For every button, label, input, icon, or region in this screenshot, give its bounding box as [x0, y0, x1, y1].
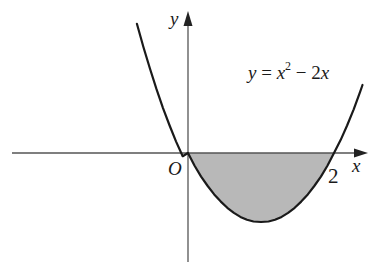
- eq-minus-two: − 2: [291, 62, 321, 83]
- eq-x2: x: [321, 62, 329, 83]
- eq-equals: =: [256, 62, 276, 83]
- origin-label: O: [168, 159, 182, 178]
- eq-x: x: [277, 62, 285, 83]
- diagram-canvas: [0, 0, 379, 265]
- y-axis-arrow-icon: [184, 11, 193, 26]
- y-axis-label: y: [170, 9, 178, 28]
- root-label-2: 2: [328, 166, 339, 187]
- x-axis-label: x: [352, 156, 360, 175]
- eq-exponent: 2: [285, 59, 291, 73]
- parabola-diagram: y = x2 − 2x y x O 2: [0, 0, 379, 265]
- parabola-curve: [136, 23, 188, 153]
- equation-label: y = x2 − 2x: [248, 62, 329, 82]
